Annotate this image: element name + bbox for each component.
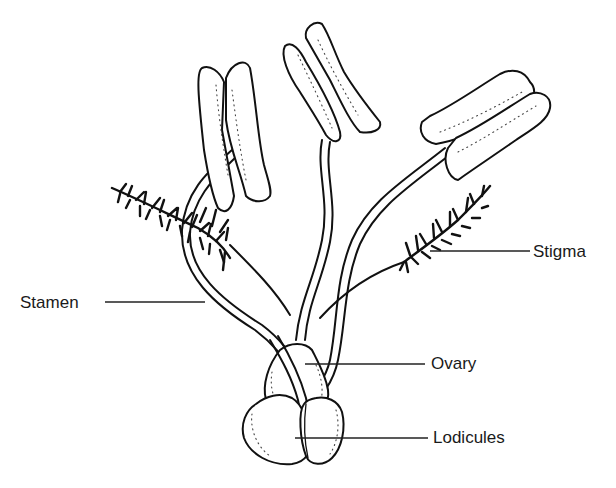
anther-right: [421, 71, 550, 180]
anther-left: [198, 63, 270, 212]
label-stamen: Stamen: [20, 294, 79, 311]
style-branches: [230, 245, 404, 318]
filament-left: [182, 150, 300, 370]
stigma-left: [112, 184, 230, 270]
anther-center: [283, 23, 380, 141]
stigma-right: [400, 186, 490, 272]
label-ovary: Ovary: [431, 355, 476, 372]
lodicules: [243, 395, 344, 464]
flower-illustration: [0, 0, 616, 488]
label-lodicules: Lodicules: [433, 429, 505, 446]
grass-flower-diagram: Stigma Stamen Ovary Lodicules: [0, 0, 616, 488]
label-stigma: Stigma: [533, 243, 586, 260]
